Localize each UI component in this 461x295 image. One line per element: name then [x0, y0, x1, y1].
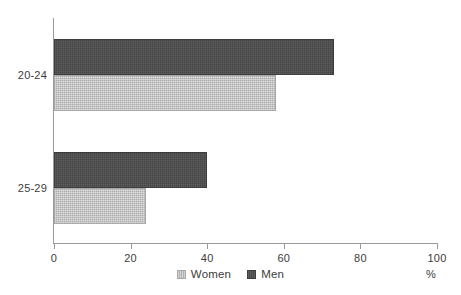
category-label: 25-29	[18, 182, 47, 194]
legend-label-men: Men	[261, 268, 284, 280]
legend-swatch-men-icon	[247, 270, 256, 279]
x-tick	[437, 244, 438, 249]
x-tick	[131, 244, 132, 249]
bar-women-25-29	[54, 188, 146, 224]
x-tick	[207, 244, 208, 249]
x-tick	[284, 244, 285, 249]
chart-legend: Women Men	[0, 268, 461, 280]
x-tick-label: 0	[51, 252, 57, 264]
x-tick	[54, 244, 55, 249]
x-tick-label: 40	[201, 252, 214, 264]
axis-unit-label: %	[426, 268, 436, 280]
legend-item-women[interactable]: Women	[177, 268, 231, 280]
x-tick-label: 60	[277, 252, 290, 264]
legend-swatch-women-icon	[177, 270, 186, 279]
bar-chart: 020406080100 20-2425-29 Women Men %	[0, 0, 461, 295]
legend-item-men[interactable]: Men	[247, 268, 284, 280]
category-label: 20-24	[18, 69, 47, 81]
bar-men-20-24	[54, 39, 334, 75]
bar-women-20-24	[54, 75, 276, 111]
bar-men-25-29	[54, 152, 207, 188]
x-tick-label: 20	[124, 252, 137, 264]
x-tick-label: 100	[428, 252, 447, 264]
legend-label-women: Women	[191, 268, 231, 280]
x-tick-label: 80	[354, 252, 367, 264]
x-tick	[360, 244, 361, 249]
plot-area	[54, 18, 437, 244]
